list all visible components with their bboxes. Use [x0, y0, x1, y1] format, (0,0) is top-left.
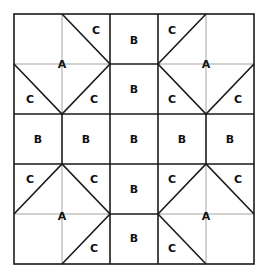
piece-label-b: B [226, 133, 234, 146]
piece-label-c: C [26, 173, 34, 186]
piece-label-a: A [58, 210, 67, 223]
piece-label-c: C [90, 173, 98, 186]
piece-label-c: C [26, 93, 34, 106]
piece-label-c: C [90, 93, 98, 106]
piece-label-b: B [178, 133, 186, 146]
piece-label-b: B [130, 183, 138, 196]
piece-label-a: A [202, 210, 211, 223]
piece-label-b: B [130, 133, 138, 146]
piece-label-c: C [168, 24, 176, 37]
piece-label-c: C [234, 173, 242, 186]
piece-label-c: C [168, 242, 176, 255]
piece-label-c: C [234, 93, 242, 106]
piece-label-c: C [92, 24, 100, 37]
piece-label-c: C [168, 173, 176, 186]
piece-labels: CBCAACCBCCBBBBBCCBCCAACBC [26, 24, 242, 255]
piece-label-c: C [90, 242, 98, 255]
piece-label-b: B [34, 133, 42, 146]
piece-label-a: A [58, 58, 67, 71]
piece-label-c: C [168, 93, 176, 106]
piece-label-b: B [130, 232, 138, 245]
piece-label-a: A [202, 58, 211, 71]
quilt-block-diagram: CBCAACCBCCBBBBBCCBCCAACBC [0, 0, 263, 280]
piece-label-b: B [130, 34, 138, 47]
piece-label-b: B [130, 83, 138, 96]
piece-label-b: B [82, 133, 90, 146]
